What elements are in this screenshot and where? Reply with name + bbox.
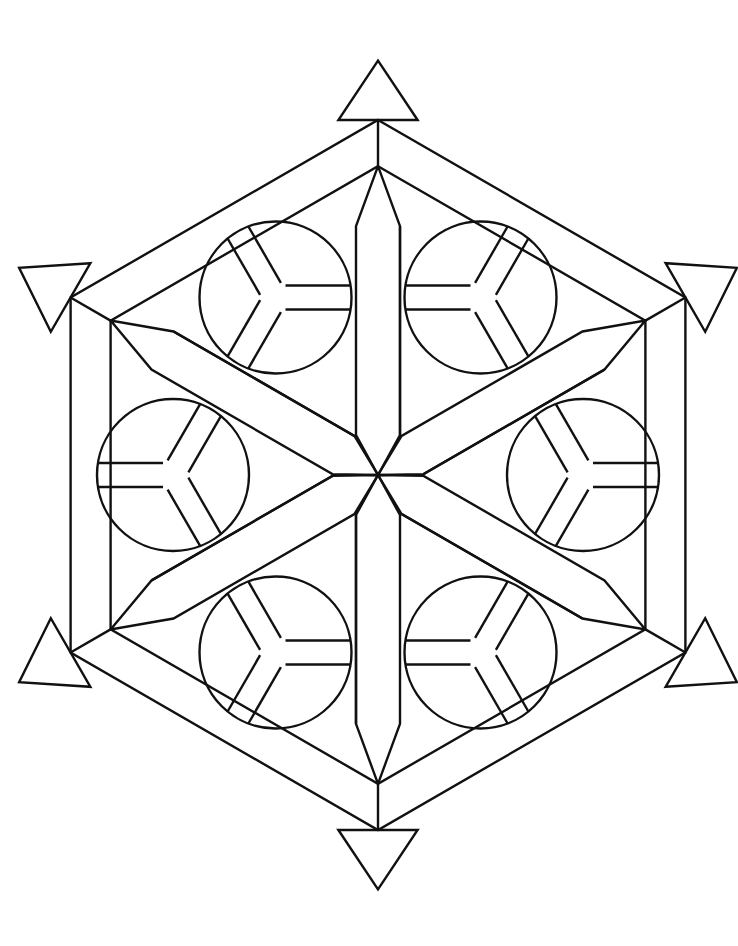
corner-triangle bbox=[19, 618, 90, 687]
corner-triangle bbox=[19, 263, 90, 332]
spoke-edge bbox=[402, 514, 583, 618]
medallion-divider bbox=[228, 655, 261, 711]
medallion-divider bbox=[496, 239, 529, 295]
hexagon-corner-line bbox=[645, 629, 685, 652]
medallion-divider bbox=[556, 404, 589, 460]
spoke-edge bbox=[424, 370, 605, 474]
spoke-bar bbox=[356, 166, 400, 475]
spoke-bar bbox=[356, 475, 400, 784]
corner-triangle bbox=[338, 61, 417, 120]
medallion-divider bbox=[475, 227, 508, 283]
medallion-divider bbox=[228, 300, 261, 356]
hexagon-corner-line bbox=[71, 298, 111, 321]
corner-triangle bbox=[666, 618, 737, 687]
star-spokes bbox=[111, 166, 646, 784]
medallion-divider bbox=[188, 416, 221, 472]
medallion-divider bbox=[188, 478, 221, 534]
medallion-circle bbox=[200, 577, 352, 729]
medallion-circle bbox=[97, 399, 249, 551]
spoke-edge bbox=[152, 476, 333, 580]
corner-triangle bbox=[666, 263, 737, 332]
medallion-divider bbox=[475, 312, 508, 368]
medallion-divider bbox=[496, 655, 529, 711]
medallion-circle bbox=[405, 222, 557, 374]
medallion-divider bbox=[168, 404, 201, 460]
medallion-divider bbox=[248, 667, 281, 723]
medallion-circle bbox=[507, 399, 659, 551]
spoke-edge bbox=[174, 332, 355, 436]
hexagon-corner-line bbox=[71, 629, 111, 652]
medallion-divider bbox=[168, 490, 201, 546]
medallion-circle bbox=[405, 577, 557, 729]
medallion-divider bbox=[248, 312, 281, 368]
medallion-divider bbox=[556, 490, 589, 546]
medallion-divider bbox=[228, 239, 261, 295]
corner-triangle bbox=[338, 830, 417, 889]
medallion-divider bbox=[248, 582, 281, 638]
medallion-divider bbox=[496, 300, 529, 356]
medallion-divider bbox=[475, 582, 508, 638]
medallion-divider bbox=[496, 594, 529, 650]
hexagon-corner-line bbox=[645, 298, 685, 321]
mandala-drawing bbox=[0, 0, 738, 946]
medallion-divider bbox=[248, 227, 281, 283]
medallion-divider bbox=[535, 478, 568, 534]
medallion-divider bbox=[535, 416, 568, 472]
medallion-circle bbox=[200, 222, 352, 374]
medallion-divider bbox=[228, 594, 261, 650]
medallion-divider bbox=[475, 667, 508, 723]
